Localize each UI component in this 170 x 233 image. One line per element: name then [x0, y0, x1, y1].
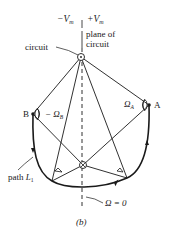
circuit-icon [78, 54, 85, 61]
ray-cross-to-lower-left [52, 165, 83, 181]
omega-a-label: ΩA [124, 99, 135, 110]
omega-zero-label: Ω = 0 [105, 198, 127, 208]
figure-caption: (b) [76, 217, 87, 227]
solid-angle-diagram: −Vm +Vm plane of circuit circuit B − ΩB … [0, 0, 170, 233]
pos-vm-label: +Vm [87, 14, 104, 25]
path-leader-line [18, 157, 33, 170]
ray-circuit-to-lower-left [52, 57, 81, 181]
ray-circuit-to-lower-right [81, 57, 127, 178]
neg-vm-label: −Vm [57, 14, 74, 25]
arrow-right-icon [145, 140, 149, 145]
ray-cross-to-a [83, 105, 149, 165]
point-b [31, 112, 35, 116]
cross-circle-icon [80, 162, 87, 169]
circuit-leader-line [56, 47, 78, 55]
point-b-label: B [23, 109, 29, 119]
ray-circuit-to-b [33, 57, 81, 114]
point-a [147, 103, 151, 107]
angle-marker-lower-left [55, 168, 62, 172]
omega-b-label: − ΩB [45, 109, 64, 120]
ray-cross-to-b [33, 114, 83, 165]
plane-label-line2: circuit [86, 39, 109, 49]
omega-zero-leader-line [86, 197, 103, 203]
angle-marker-lower-right [117, 168, 123, 172]
point-a-label: A [154, 100, 161, 110]
circuit-label: circuit [25, 42, 48, 52]
ray-circuit-to-a [81, 57, 149, 105]
path-l1-label: path L1 [8, 172, 34, 183]
plane-label-line1: plane of [86, 29, 115, 39]
